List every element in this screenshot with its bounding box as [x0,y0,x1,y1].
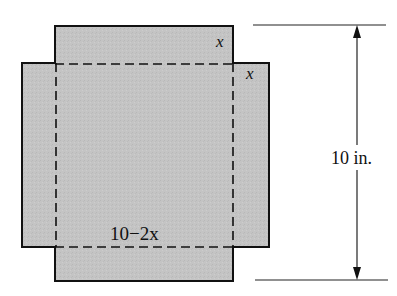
label-corner-x-top: x [215,32,224,51]
arrow-down-icon [353,267,361,280]
arrow-up-icon [353,25,361,38]
label-corner-x-right: x [245,64,254,83]
open-box-net-diagram: x x 10−2x 10 in. [0,0,397,296]
label-dimension-10in: 10 in. [331,148,372,168]
label-base-side: 10−2x [110,223,159,244]
